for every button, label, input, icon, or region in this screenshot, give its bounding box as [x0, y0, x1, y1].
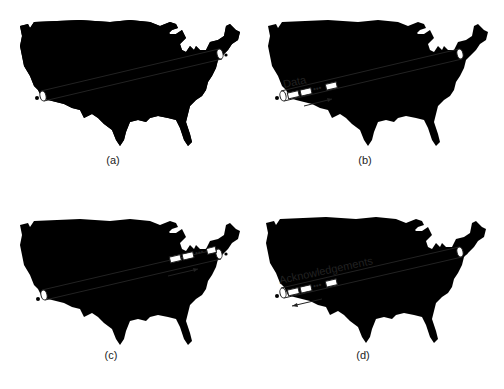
panel-caption: (a): [93, 154, 133, 166]
panel-b: ••• Data (b): [252, 0, 504, 194]
panel-caption: (d): [343, 349, 383, 361]
sender-node-icon: [275, 294, 279, 298]
receiver-node-icon: [464, 53, 467, 56]
panel-caption: (c): [91, 349, 131, 361]
receiver-node-icon: [224, 252, 227, 255]
sender-node-icon: [35, 96, 39, 100]
receiver-node-icon: [224, 53, 227, 56]
panel-a: (a): [0, 0, 252, 194]
receiver-node-icon: [464, 251, 467, 254]
svg-text:•••: •••: [194, 247, 204, 258]
panel-c: ••• (c): [0, 195, 252, 389]
panel-caption: (b): [345, 154, 385, 166]
panel-d: ••• Acknowledgements (d): [252, 195, 504, 389]
sender-node-icon: [36, 297, 40, 301]
sender-node-icon: [275, 96, 279, 100]
